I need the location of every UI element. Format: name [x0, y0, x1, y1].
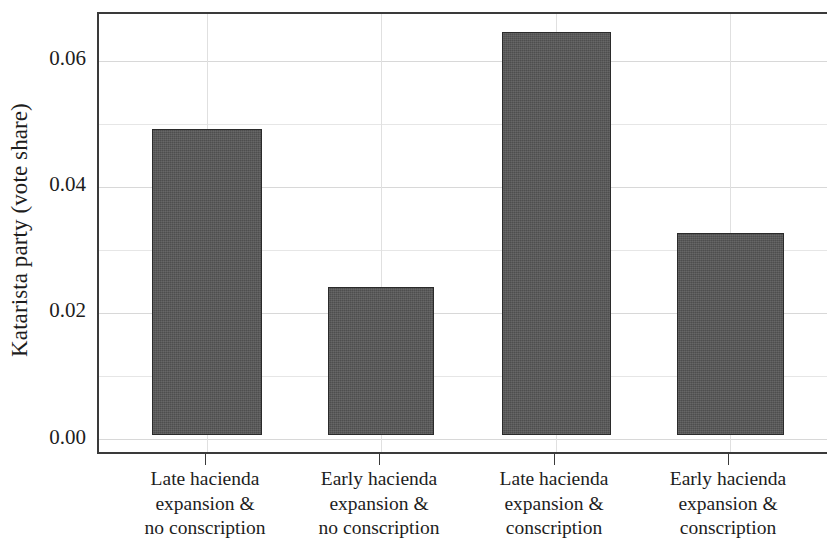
x-tick-mark-2 [379, 454, 380, 465]
y-tick-label-0.06: 0.06 [28, 48, 86, 69]
y-tick-label-0.04: 0.04 [28, 174, 86, 195]
x-tick-mark-4 [728, 454, 729, 465]
gridline-y-0.05 [99, 124, 827, 125]
gridline-y-0.00 [99, 439, 827, 440]
bar-late-hacienda-no-conscription[interactable] [152, 129, 262, 435]
plot-area [97, 12, 827, 454]
x-tick-mark-1 [205, 454, 206, 465]
bar-early-hacienda-conscription[interactable] [677, 233, 784, 435]
x-tick-label-early-hacienda-no-conscription: Early hacienda expansion & no conscripti… [284, 467, 474, 541]
x-tick-label-early-hacienda-conscription: Early hacienda expansion & conscription [633, 467, 823, 541]
y-tick-label-0.00: 0.00 [28, 427, 86, 448]
x-tick-mark-3 [554, 454, 555, 465]
x-axis-ticks-and-labels: Late hacienda expansion & no conscriptio… [0, 454, 827, 542]
y-tick-label-0.02: 0.02 [28, 300, 86, 321]
x-tick-label-late-hacienda-no-conscription: Late hacienda expansion & no conscriptio… [110, 467, 300, 541]
bar-early-hacienda-no-conscription[interactable] [328, 287, 434, 435]
x-tick-label-late-hacienda-conscription: Late hacienda expansion & conscription [459, 467, 649, 541]
gridline-y-0.06 [99, 61, 827, 62]
bar-chart-figure: Katarista party (vote share) 0.06 0.04 0… [0, 0, 827, 542]
bar-late-hacienda-conscription[interactable] [502, 32, 611, 435]
